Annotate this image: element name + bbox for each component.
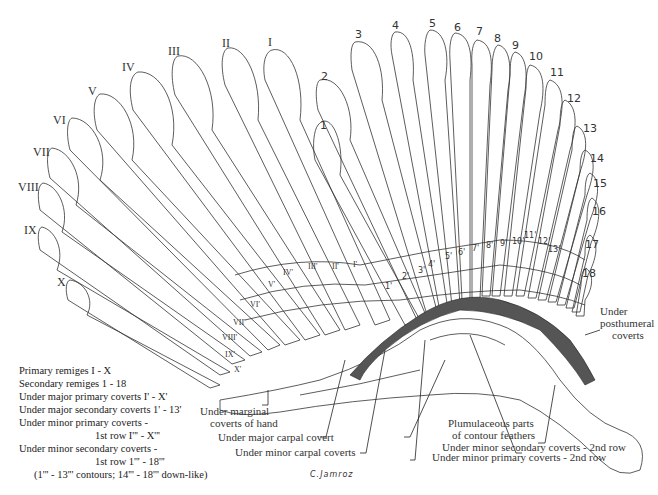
major-coverts — [235, 240, 585, 320]
label-secondary-18: 18 — [582, 267, 596, 280]
label-major-secondary-covert-3: 3' — [418, 266, 425, 275]
label-secondary-10: 10 — [529, 50, 543, 63]
label-major-secondary-covert-4: 4' — [428, 260, 435, 269]
label-primary-III: III — [168, 44, 180, 59]
label-primary-VII: VII — [33, 145, 50, 160]
legend-minor-secondary-coverts-row: 1st row 1''' - 18''' — [19, 455, 207, 468]
callout-posthumeral-l2: posthumeral — [600, 318, 654, 329]
legend-major-secondary-coverts: Under major secondary coverts 1' - 13' — [19, 403, 207, 416]
legend-minor-primary-coverts-row: 1st row I''' - X''' — [19, 429, 207, 442]
label-primary-X: X — [57, 275, 66, 290]
label-secondary-14: 14 — [590, 152, 604, 165]
label-secondary-2: 2 — [321, 70, 328, 83]
label-secondary-9: 9 — [512, 39, 519, 52]
legend-minor-primary-coverts: Under minor primary coverts - — [19, 416, 207, 429]
label-secondary-4: 4 — [392, 19, 399, 32]
label-major-primary-covert-IX: IX' — [225, 350, 235, 359]
label-major-primary-covert-VI: VI' — [250, 300, 260, 309]
label-major-primary-covert-III: III' — [308, 262, 317, 271]
label-major-primary-covert-VII: VII' — [233, 318, 246, 327]
label-major-secondary-covert-6: 6' — [458, 248, 465, 257]
label-secondary-15: 15 — [593, 177, 607, 190]
label-major-secondary-covert-5: 5' — [445, 252, 452, 261]
label-secondary-8: 8 — [494, 32, 501, 45]
label-major-primary-covert-II: II' — [332, 262, 339, 271]
label-major-primary-covert-IV: IV' — [283, 268, 293, 277]
label-major-secondary-covert-1: 1' — [385, 282, 392, 291]
artist-signature: C.Jamroz — [310, 470, 354, 479]
label-secondary-11: 11 — [550, 66, 564, 79]
legend-primary-remiges: Primary remiges I - X — [19, 364, 207, 377]
callout-plumulaceous-l2: of contour feathers — [452, 430, 535, 441]
label-major-secondary-covert-10: 10' — [512, 237, 524, 246]
label-secondary-3: 3 — [355, 28, 362, 41]
legend-major-primary-coverts: Under major primary coverts I' - X' — [19, 390, 207, 403]
label-secondary-16: 16 — [592, 205, 606, 218]
legend: Primary remiges I - X Secondary remiges … — [19, 364, 207, 481]
label-secondary-5: 5 — [429, 17, 436, 30]
callout-marginal-coverts-l2: coverts of hand — [210, 418, 278, 429]
label-secondary-7: 7 — [476, 25, 483, 38]
label-secondary-1: 1 — [320, 119, 327, 132]
callout-posthumeral-l3: coverts — [612, 330, 644, 341]
label-secondary-12: 12 — [567, 92, 581, 105]
label-primary-I: I — [268, 35, 272, 50]
label-primary-IX: IX — [24, 223, 37, 238]
callout-posthumeral-l1: Under — [600, 306, 628, 317]
legend-minor-secondary-note: (1''' - 13''' contours; 14''' - 18''' do… — [19, 468, 207, 481]
label-secondary-13: 13 — [583, 122, 597, 135]
callout-minor-carpal-coverts: Under minor carpal coverts — [235, 447, 356, 458]
legend-secondary-remiges: Secondary remiges 1 - 18 — [19, 377, 207, 390]
callout-plumulaceous-l1: Plumulaceous parts — [448, 418, 534, 429]
callout-marginal-coverts-l1: Under marginal — [200, 406, 269, 417]
label-major-secondary-covert-2: 2' — [402, 272, 409, 281]
label-primary-V: V — [88, 84, 97, 99]
callout-major-carpal-covert: Under major carpal covert — [218, 432, 334, 443]
legend-minor-secondary-coverts: Under minor secondary coverts - — [19, 442, 207, 455]
label-major-primary-covert-V: V' — [268, 280, 275, 289]
label-secondary-17: 17 — [585, 238, 599, 251]
label-major-secondary-covert-13: 13' — [548, 245, 560, 254]
label-major-secondary-covert-7: 7' — [472, 244, 479, 253]
label-major-secondary-covert-8: 8' — [486, 241, 493, 250]
label-primary-II: II — [222, 36, 230, 51]
label-primary-VI: VI — [53, 113, 66, 128]
label-primary-IV: IV — [122, 60, 135, 75]
label-primary-VIII: VIII — [18, 180, 39, 195]
label-major-secondary-covert-11: 11' — [524, 231, 536, 240]
label-major-primary-covert-VIII: VIII' — [222, 333, 237, 342]
label-secondary-6: 6 — [454, 21, 461, 34]
callout-minor-primary-2nd-row: Under minor primary coverts - 2nd row — [432, 452, 606, 463]
label-major-primary-covert-X: X' — [234, 365, 241, 374]
label-major-primary-covert-I: I' — [353, 260, 357, 269]
label-major-secondary-covert-9: 9' — [500, 239, 507, 248]
